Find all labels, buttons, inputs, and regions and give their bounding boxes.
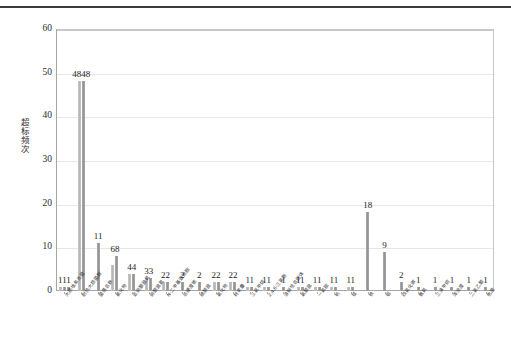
bar-group[interactable] xyxy=(191,29,208,291)
y-axis-tick-labels: 0102030405060 xyxy=(0,0,52,350)
x-axis-tick-labels: 大肠埃希氏菌耐热大肠菌群菌落总数氟化物亚硝酸盐氮硝酸盐氮N-二甲基亚硝胺总硬度铬… xyxy=(56,292,494,350)
bar-group[interactable] xyxy=(460,29,477,291)
y-tick-label: 50 xyxy=(6,68,52,78)
y-tick-label: 10 xyxy=(6,242,52,252)
bar[interactable] xyxy=(246,287,249,291)
bar-group[interactable] xyxy=(309,29,326,291)
bar-group[interactable] xyxy=(292,29,309,291)
bar[interactable] xyxy=(366,212,369,291)
bar[interactable] xyxy=(82,81,85,291)
y-tick-label: 40 xyxy=(6,111,52,121)
bar-group[interactable] xyxy=(56,29,73,291)
x-tick-label: 铁 xyxy=(367,290,375,298)
bar-group[interactable] xyxy=(359,29,376,291)
bar[interactable] xyxy=(128,274,131,291)
bar[interactable] xyxy=(314,287,317,291)
bar-group[interactable] xyxy=(427,29,444,291)
bar-group[interactable] xyxy=(123,29,140,291)
bar[interactable] xyxy=(78,81,81,291)
bar-group[interactable] xyxy=(275,29,292,291)
bar-value-label: 1 xyxy=(466,276,506,285)
bar[interactable] xyxy=(263,287,266,291)
bar-group[interactable] xyxy=(208,29,225,291)
bar[interactable] xyxy=(297,287,300,291)
bar-group[interactable] xyxy=(326,29,343,291)
x-tick-label: 锰 xyxy=(350,290,358,298)
bar[interactable] xyxy=(115,256,118,291)
bar-group[interactable] xyxy=(393,29,410,291)
bar-group[interactable] xyxy=(410,29,427,291)
x-tick-label: 钠 xyxy=(333,290,341,298)
bar-group[interactable] xyxy=(376,29,393,291)
bar[interactable] xyxy=(59,287,62,291)
bar-group[interactable] xyxy=(258,29,275,291)
bar-group[interactable] xyxy=(224,29,241,291)
x-tick-label: 铝 xyxy=(384,290,392,298)
bar-series: 1114848116844332222222211111111111111892… xyxy=(56,29,494,291)
bar-group[interactable] xyxy=(157,29,174,291)
bar-group[interactable] xyxy=(140,29,157,291)
bar[interactable] xyxy=(347,287,350,291)
bar-group[interactable] xyxy=(443,29,460,291)
page-top-rule xyxy=(0,6,511,8)
y-tick-label: 0 xyxy=(6,286,52,296)
bar[interactable] xyxy=(330,287,333,291)
bar-group[interactable] xyxy=(73,29,90,291)
bar-group[interactable] xyxy=(174,29,191,291)
bar-group[interactable] xyxy=(477,29,494,291)
y-tick-label: 20 xyxy=(6,199,52,209)
y-tick-label: 30 xyxy=(6,155,52,165)
bar-group[interactable] xyxy=(342,29,359,291)
bar-group[interactable] xyxy=(241,29,258,291)
figure-root: 超标频次 0102030405060 111484811684433222222… xyxy=(0,0,511,350)
bar[interactable] xyxy=(213,282,216,291)
y-tick-label: 60 xyxy=(6,24,52,34)
